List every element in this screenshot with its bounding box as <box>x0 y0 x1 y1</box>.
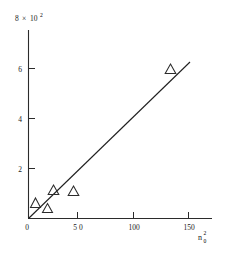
y-axis-title: 8 × 10 2 <box>15 12 43 23</box>
y-axis-title-exponent: 2 <box>40 12 43 18</box>
y-tick-label-2: 2 <box>18 165 22 174</box>
x-tick-label-150: 150 <box>183 223 195 232</box>
y-axis-title-value: 8 <box>15 14 19 23</box>
y-tick-label-6: 6 <box>18 65 22 74</box>
x-tick-label-0: 0 <box>25 223 29 232</box>
x-axis-title-subscript: 0 <box>204 238 207 244</box>
x-axis-title-symbol: n <box>198 233 202 242</box>
scatter-plot-canvas: 6 4 2 0 5 0 100 150 8 × 10 2 n 0 2 <box>0 0 235 253</box>
chart-figure: 6 4 2 0 5 0 100 150 8 × 10 2 n 0 2 <box>0 0 235 253</box>
y-axis-title-times: × <box>22 14 26 23</box>
x-axis-title-superscript: 2 <box>204 230 207 236</box>
y-axis-title-base: 10 <box>30 14 38 23</box>
data-point-marker <box>68 186 79 196</box>
y-tick-label-4: 4 <box>18 115 22 124</box>
data-point-marker <box>43 204 53 213</box>
x-axis-title: n 0 2 <box>198 230 207 244</box>
x-tick-label-50: 5 0 <box>73 223 83 232</box>
data-point-marker <box>31 198 41 208</box>
data-point-marker <box>48 185 59 195</box>
x-tick-label-100: 100 <box>128 223 140 232</box>
data-point-marker <box>165 64 176 74</box>
